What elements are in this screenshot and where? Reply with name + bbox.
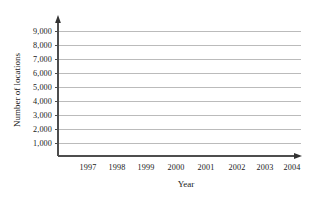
gridline-group [58,31,301,144]
xtick-label-1999: 1999 [138,163,155,172]
x-axis-arrow-icon [294,153,302,159]
ytick-label-2000: 2,000 [33,125,52,134]
xtick-label-2001: 2001 [198,163,215,172]
gridline-5000 [58,87,301,88]
gridline-7000 [58,59,301,60]
gridline-3000 [58,115,301,116]
ytick-label-5000: 5,000 [33,83,52,92]
gridline-9000 [58,31,301,32]
ytick-label-9000: 9,000 [33,27,52,36]
ytick-label-6000: 6,000 [33,69,52,78]
gridline-1000 [58,143,301,144]
xtick-label-2002: 2002 [229,163,246,172]
gridline-2000 [58,129,301,130]
gridline-6000 [58,73,301,74]
gridline-8000 [58,45,301,46]
xtick-label-1997: 1997 [80,163,97,172]
xtick-label-2003: 2003 [257,163,274,172]
y-axis-title: Number of locations [12,53,22,127]
ytick-label-8000: 8,000 [33,41,52,50]
xtick-label-group: 1997 1998 1999 2000 2001 2002 2003 2004 [80,163,301,172]
xtick-label-2004: 2004 [284,163,301,172]
ytick-label-1000: 1,000 [33,139,52,148]
gridline-4000 [58,101,301,102]
chart-canvas: 9,000 8,000 7,000 6,000 5,000 4,000 3,00… [0,0,312,202]
ytick-label-4000: 4,000 [33,97,52,106]
x-axis-title: Year [178,179,195,189]
ytick-label-7000: 7,000 [33,55,52,64]
y-axis-arrow-icon [55,15,61,23]
xtick-label-1998: 1998 [109,163,126,172]
xtick-label-2000: 2000 [168,163,185,172]
chart-figure: 9,000 8,000 7,000 6,000 5,000 4,000 3,00… [0,0,312,202]
ytick-label-3000: 3,000 [33,111,52,120]
ytick-label-group: 9,000 8,000 7,000 6,000 5,000 4,000 3,00… [33,27,52,148]
